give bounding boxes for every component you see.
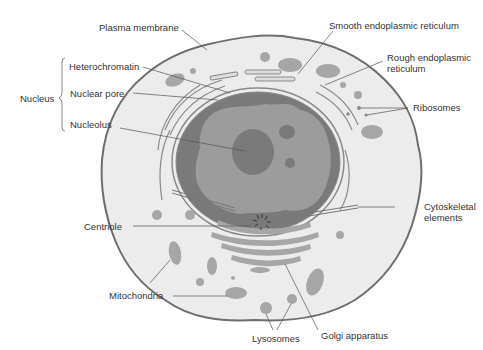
- cell-diagram: Plasma membrane Nucleus Heterochromatin …: [0, 0, 483, 350]
- label-nucleus: Nucleus: [20, 93, 54, 104]
- label-cytoskeletal-2: elements: [424, 212, 463, 223]
- label-cytoskeletal-1: Cytoskeletal: [424, 201, 476, 212]
- label-plasma-membrane: Plasma membrane: [99, 22, 179, 33]
- label-golgi: Golgi apparatus: [321, 330, 388, 341]
- nucleolus: [232, 129, 274, 175]
- label-ribosomes: Ribosomes: [413, 102, 461, 113]
- label-smooth-er: Smooth endoplasmic reticulum: [329, 20, 459, 31]
- label-centriole: Centriole: [84, 221, 122, 232]
- label-rough-er-1: Rough endoplasmic: [387, 52, 471, 63]
- label-lysosomes: Lysosomes: [252, 333, 300, 344]
- label-mitochondria: Mitochondria: [109, 290, 163, 301]
- label-rough-er-2: reticulum: [387, 63, 426, 74]
- label-nuclear-pore: Nuclear pore: [70, 88, 124, 99]
- label-nucleolus: Nucleolus: [70, 119, 112, 130]
- label-heterochromatin: Heterochromatin: [69, 61, 139, 72]
